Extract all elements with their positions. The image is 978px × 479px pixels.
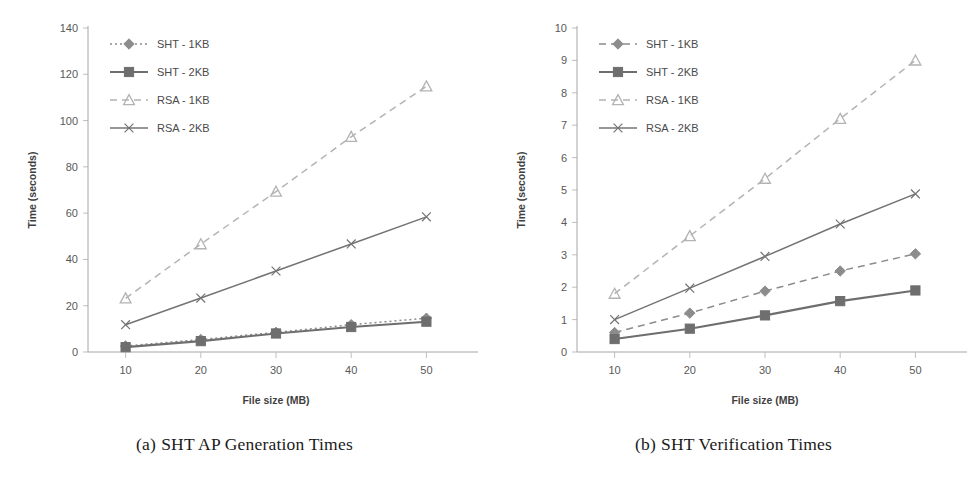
y-tick-label: 100 xyxy=(60,115,78,127)
caption-b-text: SHT Verification Times xyxy=(661,434,832,454)
x-tick-label: 40 xyxy=(834,364,846,376)
marker-square xyxy=(196,337,205,346)
y-tick-label: 9 xyxy=(561,54,567,66)
caption-a: (a)SHT AP Generation Times xyxy=(0,420,489,455)
y-tick-label: 0 xyxy=(561,346,567,358)
data-point-diamond xyxy=(124,39,134,49)
marker-cross xyxy=(347,240,356,249)
y-tick-label: 20 xyxy=(66,300,78,312)
marker-cross xyxy=(272,267,281,276)
legend-label-2: RSA - 1KB xyxy=(646,94,699,106)
data-point-cross xyxy=(422,212,431,221)
y-tick-label: 8 xyxy=(561,87,567,99)
data-point-cross xyxy=(685,284,694,293)
series-rsa2kb xyxy=(121,212,431,329)
caption-b: (b)SHT Verification Times xyxy=(489,420,978,455)
y-tick-label: 60 xyxy=(66,207,78,219)
marker-cross xyxy=(196,294,205,303)
marker-square xyxy=(836,297,845,306)
x-tick-label: 50 xyxy=(420,364,432,376)
caption-b-label: (b) xyxy=(635,434,656,454)
legend-label-0: SHT - 1KB xyxy=(646,38,698,50)
marker-diamond xyxy=(910,249,920,259)
chart-svg-b: 0123456789101020304050File size (MB)Time… xyxy=(489,0,978,420)
y-axis-title: Time (seconds) xyxy=(515,152,527,229)
data-point-square xyxy=(347,322,356,331)
x-tick-label: 40 xyxy=(345,364,357,376)
marker-square xyxy=(685,324,694,333)
data-point-diamond xyxy=(613,39,623,49)
legend-label-1: SHT - 2KB xyxy=(646,66,698,78)
data-point-diamond xyxy=(760,286,770,296)
legend-label-3: RSA - 2KB xyxy=(646,122,699,134)
legend-label-0: SHT - 1KB xyxy=(157,38,209,50)
data-point-cross xyxy=(272,267,281,276)
y-tick-label: 40 xyxy=(66,253,78,265)
data-point-square xyxy=(271,329,280,338)
data-point-square xyxy=(613,67,622,76)
marker-square xyxy=(121,343,130,352)
legend: SHT - 1KBSHT - 2KBRSA - 1KBRSA - 2KB xyxy=(110,38,210,134)
marker-cross xyxy=(911,189,920,198)
marker-cross xyxy=(610,315,619,324)
x-tick-label: 20 xyxy=(684,364,696,376)
data-point-diamond xyxy=(910,249,920,259)
x-axis-title: File size (MB) xyxy=(731,394,798,406)
data-point-square xyxy=(760,311,769,320)
y-axis-title: Time (seconds) xyxy=(26,152,38,229)
chart-svg-a: 0204060801001201401020304050File size (M… xyxy=(0,0,489,420)
data-point-cross xyxy=(761,252,770,261)
figure-captions-row: (a)SHT AP Generation Times (b)SHT Verifi… xyxy=(0,420,978,479)
data-point-cross xyxy=(196,294,205,303)
y-tick-label: 10 xyxy=(555,22,567,34)
marker-cross xyxy=(685,284,694,293)
series-rsa1kb xyxy=(120,81,432,303)
chart-panel-a: 0204060801001201401020304050File size (M… xyxy=(0,0,489,420)
marker-diamond xyxy=(124,39,134,49)
marker-cross xyxy=(422,212,431,221)
marker-diamond xyxy=(835,266,845,276)
marker-cross xyxy=(761,252,770,261)
data-point-square xyxy=(911,286,920,295)
series-sht2kb xyxy=(121,317,431,352)
data-point-cross xyxy=(911,189,920,198)
marker-square xyxy=(610,334,619,343)
y-tick-label: 6 xyxy=(561,152,567,164)
y-tick-label: 5 xyxy=(561,184,567,196)
data-point-square xyxy=(610,334,619,343)
y-tick-label: 0 xyxy=(72,346,78,358)
legend-label-1: SHT - 2KB xyxy=(157,66,209,78)
marker-square xyxy=(271,329,280,338)
x-tick-label: 30 xyxy=(270,364,282,376)
data-point-square xyxy=(121,343,130,352)
marker-cross xyxy=(836,220,845,229)
data-point-square xyxy=(124,67,133,76)
data-point-cross xyxy=(610,315,619,324)
data-point-diamond xyxy=(835,266,845,276)
caption-a-text: SHT AP Generation Times xyxy=(161,434,353,454)
x-tick-label: 30 xyxy=(759,364,771,376)
y-tick-label: 7 xyxy=(561,119,567,131)
x-tick-label: 20 xyxy=(195,364,207,376)
data-point-cross xyxy=(347,240,356,249)
y-tick-label: 3 xyxy=(561,249,567,261)
y-tick-label: 140 xyxy=(60,22,78,34)
series-rsa2kb xyxy=(610,189,920,324)
data-point-cross xyxy=(836,220,845,229)
data-point-square xyxy=(422,317,431,326)
marker-diamond xyxy=(760,286,770,296)
x-tick-label: 10 xyxy=(608,364,620,376)
y-tick-label: 4 xyxy=(561,216,567,228)
data-point-cross xyxy=(121,320,130,329)
marker-diamond xyxy=(685,308,695,318)
y-tick-label: 1 xyxy=(561,314,567,326)
data-point-diamond xyxy=(685,308,695,318)
marker-diamond xyxy=(613,39,623,49)
marker-square xyxy=(124,67,133,76)
caption-a-label: (a) xyxy=(136,434,156,454)
figure-panels-row: 0204060801001201401020304050File size (M… xyxy=(0,0,978,420)
data-point-square xyxy=(196,337,205,346)
legend-label-3: RSA - 2KB xyxy=(157,122,210,134)
series-line xyxy=(126,86,427,298)
marker-square xyxy=(760,311,769,320)
